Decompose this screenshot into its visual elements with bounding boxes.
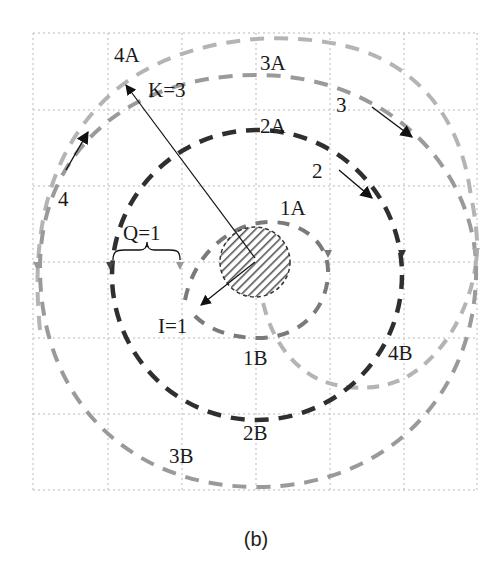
direction-arrow-4	[66, 132, 88, 170]
label-Q: Q=1	[123, 221, 161, 245]
label-4B: 4B	[388, 341, 413, 365]
label-2B: 2B	[243, 421, 268, 445]
direction-arrow-3	[372, 107, 412, 137]
label-3A: 3A	[260, 51, 287, 75]
label-1A: 1A	[280, 196, 307, 220]
ring-arrow-icon	[176, 262, 184, 270]
label-2: 2	[312, 159, 323, 183]
label-K: K=3	[148, 78, 186, 102]
ring-arrow-icon	[324, 250, 332, 258]
label-4A: 4A	[114, 43, 141, 67]
ring-diagram: 4A K=3 3A 3 2A 2 4 1A Q=1 I=1 1B 4B 2B 3…	[0, 0, 499, 575]
label-3: 3	[336, 93, 347, 117]
label-1B: 1B	[243, 346, 268, 370]
figure-caption: (b)	[244, 528, 268, 550]
label-4: 4	[58, 187, 69, 211]
direction-arrow-2	[339, 170, 372, 198]
label-3B: 3B	[169, 444, 194, 468]
label-I: I=1	[158, 314, 187, 338]
label-2A: 2A	[260, 114, 287, 138]
